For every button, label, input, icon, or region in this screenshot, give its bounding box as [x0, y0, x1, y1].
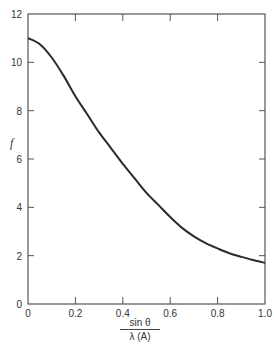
y-axis-label: f — [10, 136, 15, 150]
x-tick-label: 1.0 — [258, 308, 272, 319]
y-tick-label: 8 — [16, 106, 22, 117]
x-tick-label: 0.6 — [163, 308, 177, 319]
x-axis-label-denominator: λ (A) — [120, 330, 160, 342]
data-line-f — [28, 38, 265, 263]
scattering-factor-chart: 02468101200.20.40.60.81.0f — [0, 0, 274, 348]
x-tick-label: 0 — [25, 308, 31, 319]
y-tick-label: 10 — [11, 57, 23, 68]
x-tick-label: 0.2 — [68, 308, 82, 319]
y-tick-label: 2 — [16, 251, 22, 262]
y-tick-label: 4 — [16, 202, 22, 213]
x-axis-label: sin θ λ (A) — [120, 317, 160, 342]
x-axis-label-numerator: sin θ — [120, 317, 160, 330]
x-tick-label: 0.8 — [211, 308, 225, 319]
y-tick-label: 0 — [16, 299, 22, 310]
plot-frame — [28, 14, 265, 304]
y-tick-label: 6 — [16, 154, 22, 165]
y-tick-label: 12 — [11, 9, 23, 20]
